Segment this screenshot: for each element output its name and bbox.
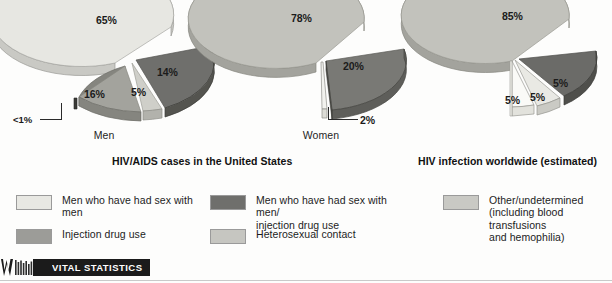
legend-item-idu[interactable]: Injection drug use [16, 228, 206, 244]
bottom-divider [0, 280, 612, 281]
pie-world-label-5c: 5% [505, 94, 520, 106]
pie-world-label-5a: 5% [553, 77, 568, 89]
pie-men-label-5: 5% [131, 86, 146, 98]
legend-item-msm[interactable]: Men who have had sex with men [16, 194, 206, 219]
pie-women-leader-v [328, 107, 329, 120]
pie-world-label-85: 85% [502, 10, 523, 22]
slice-women-idu-top [326, 49, 406, 110]
legend-label-heterosexual: Heterosexual contact [256, 228, 356, 240]
legend-swatch-msm [16, 195, 52, 210]
pie-chart-women [222, 6, 418, 124]
slice-women-other-front [322, 109, 327, 118]
group-title-world: HIV infection worldwide (estimated) [418, 155, 597, 167]
vital-statistics-figure: 65% 16% 14% 5% <1% Men 78% 20% 2% Women [0, 0, 612, 283]
pie-women-leader-h [329, 119, 358, 120]
pie-world-svg [424, 6, 610, 124]
legend-item-heterosexual[interactable]: Heterosexual contact [210, 228, 410, 244]
pie-women-svg [222, 6, 418, 124]
slice-world-other-leftface [510, 61, 512, 116]
legend-label-other: Other/undetermined (including blood tran… [489, 194, 608, 244]
group-title-us: HIV/AIDS cases in the United States [112, 155, 292, 167]
legend-item-other[interactable]: Other/undetermined (including blood tran… [443, 194, 608, 244]
pie-men-label-65: 65% [96, 14, 117, 26]
pie-men-leader-v [61, 103, 62, 120]
legend-swatch-other [443, 195, 479, 210]
legend-label-msm: Men who have had sex with men [62, 194, 206, 219]
pie-men-label-lt1: <1% [13, 114, 32, 125]
pie-women-caption: Women [281, 129, 361, 141]
legend-swatch-msm-idu [210, 195, 246, 210]
pie-world-label-5b: 5% [530, 91, 545, 103]
legend-swatch-idu [16, 229, 52, 244]
vital-statistics-label: VITAL STATISTICS [52, 262, 142, 273]
pie-men-leader-h [40, 119, 62, 120]
legend-swatch-heterosexual [210, 229, 246, 244]
pie-women-label-20: 20% [343, 60, 364, 72]
pie-men-label-14: 14% [157, 66, 178, 78]
pie-men-label-16: 16% [84, 88, 105, 100]
pie-women-label-78: 78% [291, 12, 312, 24]
slice-world-other-front [512, 105, 534, 116]
slice-men-other [74, 98, 77, 109]
vital-statistics-logo [0, 256, 52, 279]
pie-men-caption: Men [64, 129, 144, 141]
pie-women-label-2: 2% [360, 114, 375, 126]
legend-label-msm-idu: Men who have had sex with men/ injection… [256, 194, 410, 231]
pie-chart-worldwide [424, 6, 610, 124]
slice-men-het-front [143, 109, 162, 120]
legend-item-msm-idu[interactable]: Men who have had sex with men/ injection… [210, 194, 410, 231]
legend-label-idu: Injection drug use [62, 228, 146, 240]
